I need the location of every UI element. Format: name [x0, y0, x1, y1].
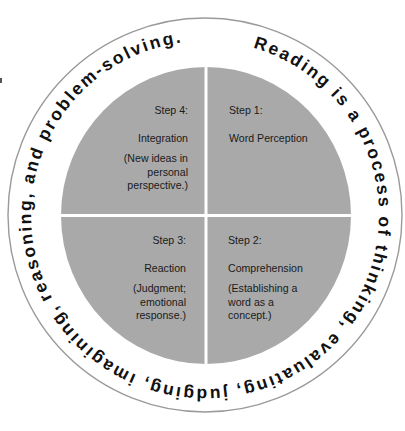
- step-label: Step 1:: [229, 104, 339, 118]
- step-name: Word Perception: [229, 132, 339, 146]
- step-name: Reaction: [78, 262, 186, 276]
- step-name: Integration: [80, 132, 188, 146]
- horizontal-divider: [55, 214, 355, 217]
- step-description-line: concept.): [228, 309, 338, 323]
- step-description-line: response.): [78, 309, 186, 323]
- quadrant-step-1: Step 1: Word Perception: [229, 104, 339, 152]
- step-description-line: emotional: [78, 296, 186, 310]
- step-name: Comprehension: [228, 262, 338, 276]
- quadrant-step-2: Step 2: Comprehension (Establishing a wo…: [228, 234, 338, 323]
- step-description-line: perspective.): [80, 179, 188, 193]
- quadrant-step-3: Step 3: Reaction (Judgment; emotional re…: [78, 234, 186, 323]
- step-label: Step 3:: [78, 234, 186, 248]
- step-description-line: (Establishing a: [228, 282, 338, 296]
- step-description-line: (Judgment;: [78, 282, 186, 296]
- quadrant-step-4: Step 4: Integration (New ideas in person…: [80, 104, 188, 193]
- step-description-line: word as a: [228, 296, 338, 310]
- reading-process-diagram: Reading is a process of thinking, evalua…: [0, 0, 405, 431]
- step-description-line: personal: [80, 166, 188, 180]
- step-label: Step 2:: [228, 234, 338, 248]
- step-label: Step 4:: [80, 104, 188, 118]
- step-description-line: (New ideas in: [80, 152, 188, 166]
